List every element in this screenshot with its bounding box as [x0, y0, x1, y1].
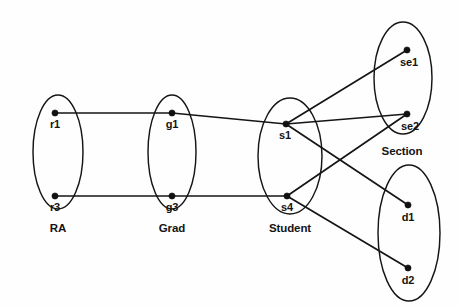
- edge-g1-s1: [172, 113, 286, 124]
- node-dot-d2: [405, 265, 411, 271]
- node-label-r3: r3: [50, 201, 60, 213]
- diagram-canvas: r1r3g1g3s1s4se1se2d1d2 RAGradStudentSect…: [0, 0, 458, 307]
- set-label-layer: RAGradStudentSection: [50, 145, 423, 234]
- node-label-g1: g1: [166, 118, 179, 130]
- node-dot-se1: [404, 47, 410, 53]
- set-label-ra: RA: [50, 222, 66, 234]
- edge-s1-se1: [286, 50, 407, 124]
- node-dot-r1: [52, 110, 58, 116]
- node-dot-d1: [405, 202, 411, 208]
- node-dot-r3: [52, 193, 58, 199]
- node-label-d2: d2: [402, 274, 415, 286]
- set-ellipse-layer: [33, 22, 440, 301]
- set-label-section: Section: [382, 145, 423, 157]
- node-dot-s4: [284, 193, 290, 199]
- set-label-student: Student: [269, 222, 311, 234]
- edge-layer: [55, 50, 408, 268]
- node-dot-se2: [404, 111, 410, 117]
- node-label-s1: s1: [279, 129, 291, 141]
- diagram-root: r1r3g1g3s1s4se1se2d1d2 RAGradStudentSect…: [0, 0, 458, 307]
- node-label-r1: r1: [50, 118, 60, 130]
- node-label-layer: r1r3g1g3s1s4se1se2d1d2: [50, 56, 419, 286]
- node-label-se2: se2: [401, 120, 419, 132]
- node-label-s4: s4: [281, 201, 294, 213]
- node-label-g3: g3: [166, 201, 179, 213]
- node-dot-g3: [169, 193, 175, 199]
- node-dot-s1: [283, 121, 289, 127]
- node-dot-g1: [169, 110, 175, 116]
- node-label-se1: se1: [400, 56, 418, 68]
- edge-s1-se2: [286, 114, 407, 124]
- edge-s1-d1: [286, 124, 408, 205]
- set-label-grad: Grad: [159, 222, 186, 234]
- node-label-d1: d1: [402, 211, 415, 223]
